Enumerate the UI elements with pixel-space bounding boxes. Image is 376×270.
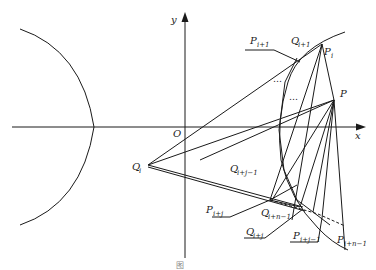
line-qi-qij1-b (148, 167, 305, 211)
svg-text:i+j−1: i+j−1 (237, 169, 258, 177)
svg-text:i+j−1: i+j−1 (300, 236, 321, 244)
line-p-left (200, 100, 334, 160)
dashed-1 (270, 200, 318, 214)
label-qi: Q i (132, 161, 141, 175)
label-p: P (339, 88, 347, 99)
label-qij1: Q i+j−1 (230, 163, 258, 177)
figure-caption: 图 (176, 261, 184, 270)
leader-pi1 (245, 50, 300, 62)
svg-text:i+1: i+1 (298, 41, 311, 49)
line-qi-pi (148, 44, 322, 165)
svg-text:P: P (249, 35, 257, 46)
svg-text:P: P (292, 230, 300, 241)
origin-label: O (173, 128, 181, 139)
chord-polyline (279, 58, 330, 225)
svg-text:P: P (336, 234, 344, 245)
svg-text:i+j: i+j (213, 210, 224, 218)
y-axis-arrow-icon (182, 12, 189, 22)
x-axis-label: x (355, 130, 361, 141)
svg-text:i+n−1: i+n−1 (344, 240, 367, 248)
line-pi-down2 (270, 44, 322, 200)
label-pij: P i+j (205, 204, 224, 218)
svg-text:i+n−1: i+n−1 (268, 213, 291, 221)
ellipsis-middle: … (289, 92, 298, 102)
ellipsis-upper: … (273, 74, 282, 84)
hyperbola-tangent-diagram: x y O … … P i+1 Q i+1 P i P (0, 0, 376, 270)
x-axis (12, 124, 366, 131)
line-pi-down1 (292, 44, 322, 220)
svg-text:P: P (205, 204, 213, 215)
svg-text:i+1: i+1 (257, 41, 270, 49)
label-qi1: Q i+1 (291, 35, 311, 49)
svg-text:i: i (331, 52, 333, 60)
y-axis-label: y (170, 14, 177, 25)
label-pi1: P i+1 (249, 35, 270, 49)
fan-5 (334, 100, 345, 250)
svg-text:i: i (139, 167, 141, 175)
svg-text:i+j: i+j (253, 232, 264, 240)
y-axis (182, 12, 189, 258)
label-qin1: Q i+n−1 (261, 207, 291, 221)
svg-text:P: P (323, 46, 331, 57)
